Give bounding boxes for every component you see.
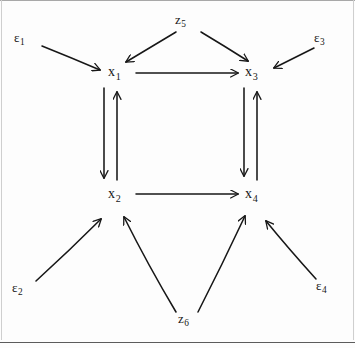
- exogenous-label-z5: z5: [175, 12, 186, 29]
- exogenous-label-epsilon3: ε3: [314, 30, 325, 47]
- edge-layer: [0, 0, 355, 348]
- edge-z5-to-x3: [201, 32, 248, 61]
- exogenous-label-epsilon2: ε2: [12, 280, 23, 297]
- edge-z6-to-x2: [124, 217, 176, 312]
- node-label-x2: x2: [108, 186, 121, 204]
- edge-z5-to-x1: [126, 32, 176, 62]
- diagram-canvas: x1 x3 x2 x4 ε1 z5 ε3 ε2 z6 ε4: [0, 0, 355, 348]
- edge-z6-to-x4: [198, 216, 245, 312]
- edge-e2-to-x2: [36, 219, 101, 281]
- node-label-x4: x4: [245, 186, 258, 204]
- exogenous-label-epsilon1: ε1: [14, 30, 25, 47]
- node-label-x1: x1: [108, 64, 121, 82]
- edge-e3-to-x3: [274, 48, 314, 68]
- edge-e1-to-x1: [42, 46, 100, 70]
- exogenous-label-epsilon4: ε4: [316, 278, 327, 295]
- edge-e4-to-x4: [266, 221, 316, 279]
- exogenous-label-z6: z6: [178, 311, 189, 328]
- node-label-x3: x3: [245, 64, 258, 82]
